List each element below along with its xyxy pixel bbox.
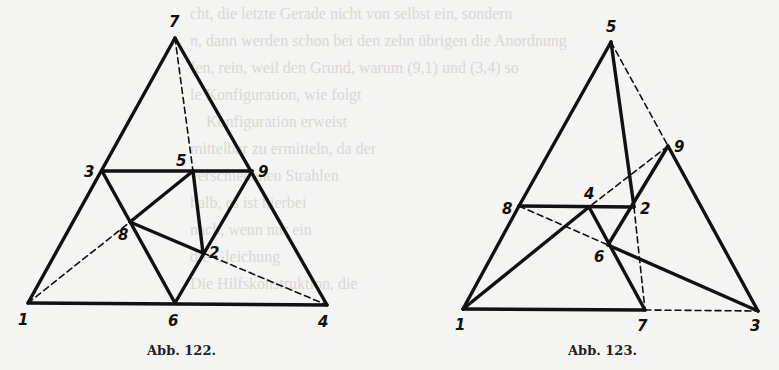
point-label-6: 6	[168, 312, 178, 330]
point-label-7: 7	[637, 317, 648, 335]
solid-line-5-2	[611, 42, 634, 207]
figure-abb-123: 598426173	[455, 18, 760, 335]
dashed-line-1-8	[28, 222, 130, 303]
point-label-6: 6	[594, 248, 604, 266]
point-label-2: 2	[209, 244, 219, 262]
solid-line-8-5	[130, 171, 193, 222]
dashed-line-2-4	[203, 253, 327, 305]
point-label-9: 9	[674, 138, 684, 156]
solid-line-8-1	[463, 206, 519, 309]
solid-line-1-4	[28, 303, 327, 305]
point-label-5: 5	[606, 18, 616, 36]
solid-line-9-3	[668, 146, 758, 311]
solid-line-8-2	[519, 206, 634, 207]
point-label-1: 1	[455, 316, 465, 334]
solid-line-5-2	[193, 171, 203, 253]
solid-line-9-6	[175, 171, 252, 303]
solid-line-5-8	[519, 42, 611, 206]
point-label-4: 4	[583, 185, 594, 203]
solid-line-8-2	[130, 222, 203, 253]
point-label-7: 7	[169, 13, 180, 31]
caption-abb-122: Abb. 122.	[147, 343, 216, 358]
point-label-8: 8	[502, 200, 512, 218]
point-label-9: 9	[258, 163, 268, 181]
point-label-5: 5	[176, 152, 186, 170]
dashed-line-7-3	[645, 310, 758, 311]
solid-line-9-6	[608, 146, 668, 245]
point-label-2: 2	[640, 200, 650, 218]
solid-line-1-4	[463, 207, 589, 309]
solid-line-1-7	[463, 309, 645, 310]
point-label-3: 3	[750, 317, 760, 335]
solid-line-6-3	[608, 245, 758, 311]
point-label-8: 8	[118, 226, 128, 244]
figure-abb-122: 735982164	[18, 13, 328, 331]
point-label-3: 3	[84, 163, 94, 181]
point-label-1: 1	[18, 311, 28, 329]
diagram-canvas: 735982164 598426173	[0, 0, 779, 370]
point-label-4: 4	[317, 313, 328, 331]
caption-abb-123: Abb. 123.	[568, 343, 637, 358]
